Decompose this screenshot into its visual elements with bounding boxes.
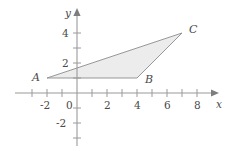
x-tick-label-neg2: -2 xyxy=(40,100,50,111)
y-tick-label-4: 4 xyxy=(62,28,69,39)
y-tick-label-neg2: -2 xyxy=(56,118,66,129)
x-tick-label-6: 6 xyxy=(164,100,171,111)
origin-label: 0 xyxy=(66,100,73,111)
x-tick-label-8: 8 xyxy=(194,100,201,111)
vertex-label-a: A xyxy=(32,72,40,83)
x-axis-arrow-icon xyxy=(211,89,219,96)
x-axis-label: x xyxy=(216,99,222,110)
y-axis-arrow-icon xyxy=(73,8,80,16)
x-tick-label-2: 2 xyxy=(104,100,111,111)
x-tick-label-4: 4 xyxy=(134,100,141,111)
vertex-label-c: C xyxy=(189,24,197,35)
triangle-abc-shape xyxy=(47,33,182,78)
y-axis-label: y xyxy=(65,8,71,19)
coordinate-plane-figure: -2 2 4 6 8 0 4 2 -2 x y A B C xyxy=(0,0,231,151)
y-tick-label-2: 2 xyxy=(62,58,69,69)
vertex-label-b: B xyxy=(145,74,153,85)
